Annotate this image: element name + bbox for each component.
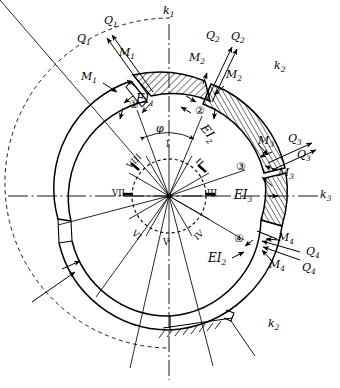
force-label-Q1-inner: Q1 <box>77 33 91 47</box>
force-label-M3-lower: M3 <box>278 167 294 181</box>
axis-label-k2-lower: k2 <box>268 318 279 332</box>
force-label-Q2-outer: Q2 <box>231 31 245 45</box>
lower-left-leader-arrow <box>32 261 80 302</box>
hub-numeral-III: III <box>207 189 217 198</box>
stiffness-label-EI3: EI3 <box>234 189 252 204</box>
phi-angle-arc <box>145 133 194 139</box>
axis-label-k2-upper: k2 <box>274 60 285 74</box>
angle-label-phi: φ <box>156 123 164 134</box>
hub-numeral-I: I <box>166 140 169 149</box>
engineering-diagram: k1 k3 k2 k2 EI1 EI2 EI3 EI2 φ ① ② ③ ④ Q1… <box>0 0 340 388</box>
force-label-Q3-lower: Q3 <box>297 149 311 163</box>
axis-label-k3: k3 <box>320 189 331 203</box>
ground-support-hatching <box>159 310 255 356</box>
force-label-M1-outer: M1 <box>81 71 97 85</box>
joint-marker-1: ① <box>129 99 139 110</box>
force-label-M2-outer: M2 <box>226 69 242 83</box>
force-label-Q4-upper: Q4 <box>306 246 320 260</box>
force-label-Q4-lower: Q4 <box>302 262 316 276</box>
hub-numeral-VII: VII <box>112 189 125 198</box>
joint-marker-2: ② <box>195 105 205 116</box>
force-label-M3-upper: M3 <box>258 135 274 149</box>
force-label-M2-inner: M2 <box>189 52 205 66</box>
force-label-Q1-outer: Q1 <box>104 15 118 29</box>
force-label-M4-upper: M4 <box>278 232 294 246</box>
hub-numeral-V: V <box>163 238 169 247</box>
outer-dashed-reference-arc <box>5 18 170 348</box>
axis-label-k1: k1 <box>163 5 174 19</box>
arch-band-lower-right <box>170 220 282 330</box>
force-label-M1-inner: M1 <box>119 47 135 61</box>
diagram-canvas <box>0 0 340 388</box>
hatched-arch-segment-EI3 <box>261 173 287 226</box>
joint-marker-4: ④ <box>234 233 244 244</box>
joint-marker-3: ③ <box>236 161 246 172</box>
stiffness-label-EI2-lower: EI2 <box>208 252 226 267</box>
force-label-Q3-upper: Q3 <box>288 133 302 147</box>
force-label-Q2-inner: Q2 <box>206 30 220 44</box>
force-label-M4-lower: M4 <box>269 259 285 273</box>
